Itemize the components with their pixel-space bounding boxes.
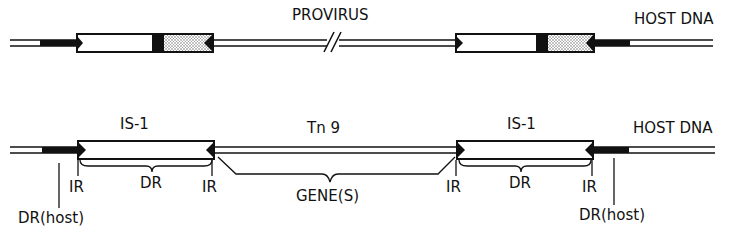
host-dna-label-bottom: HOST DNA — [633, 121, 713, 136]
dr-label-right: DR — [509, 176, 531, 191]
host-dr-left — [40, 40, 78, 46]
ir-label-2: IR — [202, 180, 217, 195]
is1-right — [457, 141, 593, 159]
gene-brace — [218, 157, 455, 182]
gene-label: GENE(S) — [296, 189, 359, 204]
tn9-label: Tn 9 — [307, 121, 340, 136]
dr-label-left: DR — [140, 176, 162, 191]
dr-host-label-right: DR(host) — [579, 208, 645, 223]
dr-host-label-left: DR(host) — [18, 211, 84, 226]
ir-label-4: IR — [582, 180, 597, 195]
is1-left-label: IS-1 — [120, 117, 149, 132]
ir-label-3: IR — [446, 180, 461, 195]
is1-left — [78, 141, 214, 159]
host-dna-label-top: HOST DNA — [634, 12, 714, 27]
provirus-label: PROVIRUS — [292, 8, 369, 23]
is1-right-label: IS-1 — [507, 117, 536, 132]
diagram-canvas: PROVIRUS HOST DNA IS-1 Tn 9 IS-1 HOST DN… — [0, 0, 737, 241]
provirus-diagram — [10, 32, 713, 52]
transposon-diagram — [10, 141, 715, 208]
ir-label-1: IR — [69, 180, 84, 195]
host-dr-right — [594, 40, 630, 46]
dr-brace-left — [80, 160, 212, 172]
diagram-drawing — [0, 0, 737, 241]
dr-brace-right — [459, 160, 591, 172]
